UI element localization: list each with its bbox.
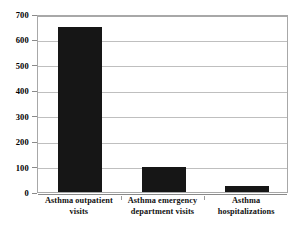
y-axis: 0100200300400500600700: [0, 0, 37, 233]
y-tick-label-400: 400: [16, 87, 29, 95]
bar-1: [58, 27, 102, 192]
y-tick-label-300: 300: [16, 113, 29, 121]
x-axis: Asthma outpatientvisitsAsthma emergencyd…: [37, 196, 288, 233]
x-tick-label-3: Asthmahospitalizations: [204, 196, 288, 217]
y-tick-label-0: 0: [25, 189, 29, 197]
gridline-0: [38, 194, 287, 195]
x-tick-label-2: Asthma emergencydepartment visits: [121, 196, 205, 217]
bar-chart: 0100200300400500600700 Asthma outpatient…: [0, 0, 303, 233]
y-tick-label-200: 200: [16, 138, 29, 146]
bar-2: [142, 167, 186, 192]
y-tick-label-700: 700: [16, 11, 29, 19]
x-tick-label-line: hospitalizations: [204, 207, 288, 218]
y-tick-label-100: 100: [16, 164, 29, 172]
bar-3: [225, 186, 269, 192]
x-tick-label-line: Asthma emergency: [121, 196, 205, 207]
plot-area: [37, 15, 288, 193]
x-tick-label-line: Asthma: [204, 196, 288, 207]
x-tick-label-line: Asthma outpatient: [37, 196, 121, 207]
gridline-700: [38, 16, 287, 17]
x-tick-label-line: department visits: [121, 207, 205, 218]
x-tick-label-1: Asthma outpatientvisits: [37, 196, 121, 217]
y-tick-label-500: 500: [16, 62, 29, 70]
x-tick-label-line: visits: [37, 207, 121, 218]
y-tick-label-600: 600: [16, 36, 29, 44]
